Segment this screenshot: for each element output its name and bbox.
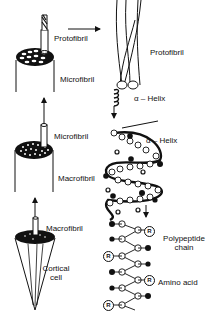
small-alpha-helix	[114, 90, 119, 118]
r-group-4: R	[103, 300, 114, 311]
label-cortical-cell-line2: cell	[50, 273, 62, 282]
label-cortical-cell: Cortical cell	[40, 264, 72, 282]
label-macrofibril-mid: Macrofibril	[58, 174, 95, 183]
r-group-1: R	[144, 226, 155, 237]
microfibril-cylinder	[16, 15, 54, 92]
label-cortical-cell-line1: Cortical	[42, 264, 69, 273]
label-polypeptide-line1: Polypeptide	[163, 234, 205, 243]
label-alpha-helix-top: α – Helix	[134, 94, 165, 103]
label-polypeptide-line2: chain	[174, 243, 193, 252]
label-protofibril-right: Protofibril	[150, 48, 184, 57]
label-macrofibril-bottom: Macrofibril	[46, 224, 83, 233]
label-amino-acid: Amino acid	[158, 278, 198, 287]
wool-fibre-structure-diagram: R R R R Protofibril Microfibril Protofib…	[0, 0, 218, 327]
label-polypeptide-chain: Polypeptide chain	[158, 234, 210, 252]
label-alpha-helix-mid: α – Helix	[146, 136, 177, 145]
r-group-2: R	[103, 251, 114, 262]
label-microfibril-top: Microfibril	[60, 75, 94, 84]
protofibril-strands	[116, 0, 141, 89]
label-microfibril-mid: Microfibril	[54, 132, 88, 141]
macrofibril-cylinder	[15, 124, 53, 193]
r-group-3: R	[144, 275, 155, 286]
label-protofibril-left: Protofibril	[54, 34, 88, 43]
